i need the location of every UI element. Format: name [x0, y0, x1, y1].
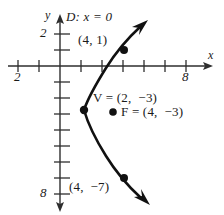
directrix-label: D: x = 0: [66, 10, 112, 23]
upper-point-label: (4, 1): [78, 33, 107, 46]
upper-point: [120, 46, 128, 54]
lower-point-label: (4, −7): [69, 180, 109, 193]
y-axis: [56, 14, 64, 212]
x-axis-label: x: [208, 49, 214, 61]
y-axis-label: y: [45, 9, 51, 21]
x-tick-label-left: 2: [14, 70, 21, 83]
vertex-label: V = (2, −3): [93, 91, 157, 104]
y-axis-ticks: [54, 34, 70, 194]
focus-point: [109, 108, 117, 116]
parabola-figure: y x 2 8 2 8 D: x = 0 (4, 1) V = (2, −3) …: [0, 0, 224, 215]
vertex-point: [80, 106, 88, 114]
x-tick-label-right: 8: [182, 70, 189, 83]
y-tick-label-top: 2: [40, 26, 47, 39]
lower-point: [120, 174, 128, 182]
y-tick-label-bottom: 8: [40, 186, 47, 199]
graph-canvas: [0, 0, 224, 215]
focus-label: F = (4, −3): [121, 105, 183, 118]
